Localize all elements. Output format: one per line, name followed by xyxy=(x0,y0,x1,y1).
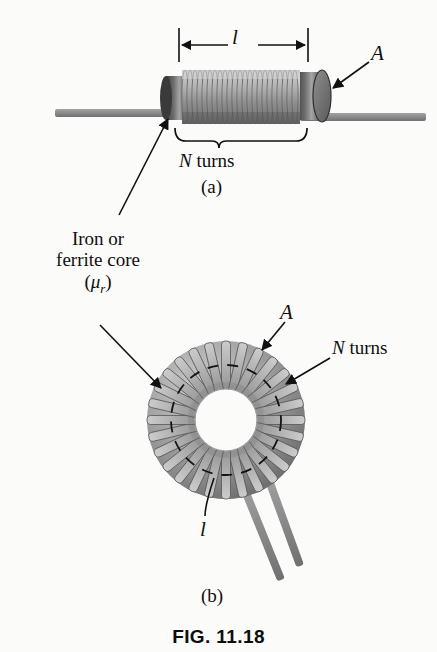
n-symbol-a: N xyxy=(179,150,192,171)
n-turns-label-a: N turns xyxy=(179,150,234,171)
solenoid-core-right xyxy=(296,70,331,122)
brace-n-turns xyxy=(175,128,307,148)
mu-glyph: μ xyxy=(91,271,101,292)
n-turns-label-b: N turns xyxy=(332,337,387,358)
figure-graphics xyxy=(0,0,437,652)
core-annotation-line2: ferrite core xyxy=(28,249,168,270)
leader-area-b xyxy=(262,322,285,350)
core-annotation-line1: Iron or xyxy=(28,228,168,249)
leader-n-turns-b xyxy=(286,358,330,384)
turns-word-a: turns xyxy=(192,150,235,171)
n-symbol-b: N xyxy=(332,337,345,358)
leader-core-toroid xyxy=(100,325,161,388)
core-permeability-symbol: (μr) xyxy=(28,271,168,296)
mu-symbol: μr xyxy=(91,271,106,292)
area-label-b: A xyxy=(280,301,293,325)
figure-11-18: l A N turns (a) Iron or ferrite core (μr… xyxy=(0,0,437,652)
turns-word-b: turns xyxy=(345,337,388,358)
area-label-a: A xyxy=(371,42,384,66)
length-label-a: l xyxy=(232,26,238,50)
core-annotation: Iron or ferrite core (μr) xyxy=(28,228,168,296)
part-a-caption: (a) xyxy=(201,176,222,197)
leader-area-a xyxy=(333,62,369,88)
paren-close: ) xyxy=(105,271,111,292)
solenoid-winding xyxy=(182,70,300,124)
length-label-b: l xyxy=(200,518,206,542)
leader-core-solenoid xyxy=(119,119,168,215)
toroid-core xyxy=(147,341,305,499)
figure-caption: FIG. 11.18 xyxy=(0,626,437,648)
dimension-line-length xyxy=(179,28,308,62)
part-b-caption: (b) xyxy=(201,585,223,606)
